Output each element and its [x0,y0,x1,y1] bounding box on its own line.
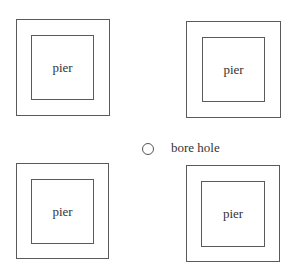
pier-top-right: pier [202,37,265,102]
pier-label: pier [52,204,72,220]
circle-icon [142,143,154,155]
pier-bottom-right: pier [201,181,265,247]
pier-label: pier [52,60,72,76]
pier-bottom-left: pier [31,179,94,244]
pier-label: pier [223,206,243,222]
bore-hole-label: bore hole [171,140,220,156]
pier-top-left: pier [31,35,94,100]
pier-label: pier [223,62,243,78]
